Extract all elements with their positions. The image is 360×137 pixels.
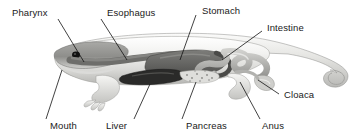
hind-leg (228, 71, 258, 99)
salamander-illustration (0, 0, 360, 137)
anatomy-figure: Pharynx Esophagus Stomach Intestine Cloa… (0, 0, 360, 137)
label-pancreas: Pancreas (186, 121, 227, 131)
label-cloaca: Cloaca (284, 90, 314, 100)
label-esophagus: Esophagus (107, 8, 155, 18)
leader-mouth (46, 70, 62, 119)
label-liver: Liver (106, 121, 127, 131)
label-stomach: Stomach (202, 6, 240, 16)
label-intestine: Intestine (267, 23, 304, 33)
label-pharynx: Pharynx (12, 8, 48, 18)
leader-pancreas (182, 82, 196, 119)
label-mouth: Mouth (50, 121, 77, 131)
label-anus: Anus (262, 121, 284, 131)
leader-liver (134, 84, 150, 119)
